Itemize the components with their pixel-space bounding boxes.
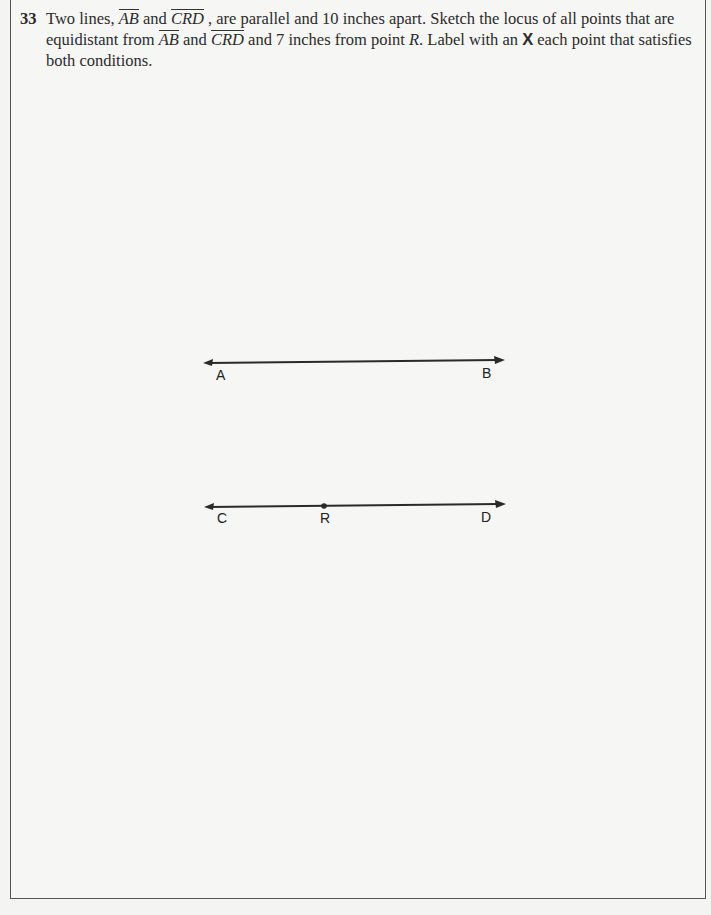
label-d: D (481, 509, 491, 525)
label-b: B (482, 365, 491, 381)
parallel-lines-diagram (0, 0, 711, 915)
label-r: R (320, 510, 330, 526)
right-arrow-icon (495, 500, 506, 508)
right-arrow-icon (494, 356, 505, 364)
label-a: A (216, 367, 225, 383)
point-r-dot (321, 503, 327, 509)
label-c: C (217, 510, 227, 526)
left-arrow-icon (204, 503, 214, 510)
line-ab (203, 356, 505, 366)
left-arrow-icon (203, 359, 213, 366)
line-crd (204, 500, 506, 510)
